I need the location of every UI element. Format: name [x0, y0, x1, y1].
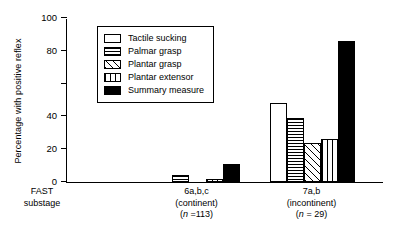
legend-item-tactile-sucking: Tactile sucking	[104, 32, 204, 45]
x-axis-caption-line2: substage	[4, 198, 80, 210]
bar-palmar-grasp-group-1	[287, 118, 304, 182]
x-group-label-1: 7a,b(incontinent)(n = 29)	[252, 186, 371, 221]
bar-plantar-extensor-group-0	[206, 179, 223, 182]
bar-summary-measure-group-1	[338, 41, 355, 182]
x-group-1-stage: 7a,b	[252, 186, 371, 198]
legend-swatch-diagonal-stripe-icon	[104, 60, 121, 69]
x-axis-labels: FAST substage 6a,b,c(continent)(n =113)7…	[66, 186, 383, 230]
bar-plantar-extensor-group-1	[321, 139, 338, 182]
bar-palmar-grasp-group-0	[172, 175, 189, 182]
chart-legend: Tactile suckingPalmar graspPlantar grasp…	[97, 26, 214, 103]
x-axis-caption-line1: FAST	[4, 186, 80, 198]
bar-tactile-sucking-group-1	[270, 103, 287, 182]
bar-plantar-grasp-group-1	[304, 143, 321, 182]
x-axis-caption: FAST substage	[4, 186, 80, 209]
y-tick-40: 40	[61, 115, 67, 116]
legend-label: Plantar extensor	[128, 73, 194, 82]
legend-item-plantar-extensor: Plantar extensor	[104, 71, 204, 84]
x-group-0-sample-size: (n =113)	[137, 209, 256, 221]
bar-chart: Percentage with positive reflex 02040801…	[0, 0, 402, 230]
x-group-1-sample-size: (n = 29)	[252, 209, 371, 221]
x-group-0-continence: (continent)	[137, 198, 256, 210]
y-axis-title: Percentage with positive reflex	[13, 21, 23, 181]
legend-item-summary-measure: Summary measure	[104, 84, 204, 97]
y-tick-20: 20	[61, 148, 67, 149]
legend-label: Plantar grasp	[128, 60, 182, 69]
y-tick-label-80: 80	[46, 46, 57, 56]
y-tick-0: 0	[61, 181, 67, 182]
legend-label: Tactile sucking	[128, 34, 187, 43]
y-tick-80: 80	[61, 50, 67, 51]
legend-swatch-solid-white-icon	[104, 34, 121, 43]
y-tick-label-40: 40	[46, 112, 57, 122]
bar-group-1	[270, 19, 355, 182]
legend-item-plantar-grasp: Plantar grasp	[104, 58, 204, 71]
x-group-label-0: 6a,b,c(continent)(n =113)	[137, 186, 256, 221]
legend-label: Palmar grasp	[128, 47, 182, 56]
legend-item-palmar-grasp: Palmar grasp	[104, 45, 204, 58]
y-tick-60	[61, 83, 67, 84]
y-tick-label-20: 20	[46, 144, 57, 154]
y-tick-100: 100	[61, 17, 67, 18]
x-group-0-stage: 6a,b,c	[137, 186, 256, 198]
legend-swatch-solid-black-icon	[104, 86, 121, 95]
legend-swatch-vertical-stripe-icon	[104, 73, 121, 82]
y-tick-label-100: 100	[41, 13, 57, 23]
bar-summary-measure-group-0	[223, 164, 240, 182]
legend-label: Summary measure	[128, 86, 204, 95]
x-group-1-continence: (incontinent)	[252, 198, 371, 210]
legend-swatch-horizontal-stripe-icon	[104, 47, 121, 56]
